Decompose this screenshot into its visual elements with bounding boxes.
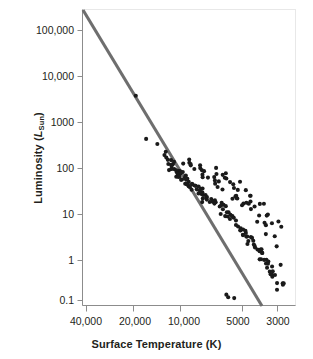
scatter-point [187, 158, 191, 162]
scatter-point [247, 202, 251, 206]
y-axis-title: Luminosity (LSun) [28, 38, 44, 278]
scatter-point [265, 266, 269, 270]
scatter-point [164, 155, 168, 159]
scatter-point [224, 171, 228, 175]
scatter-point [253, 204, 257, 208]
scatter-point [217, 179, 221, 183]
scatter-point [273, 234, 277, 238]
scatter-point [234, 218, 238, 222]
scatter-point [181, 162, 185, 166]
scatter-point [214, 166, 218, 170]
scatter-point [273, 273, 277, 277]
scatter-point [258, 202, 262, 206]
scatter-point [219, 212, 223, 216]
scatter-point [270, 221, 274, 225]
scatter-point [252, 243, 256, 247]
scatter-point [255, 220, 259, 224]
scatter-point [198, 163, 202, 167]
scatter-point [144, 137, 148, 141]
scatter-point [212, 202, 216, 206]
scatter-point [219, 203, 223, 207]
scatter-point [226, 295, 230, 299]
scatter-point [266, 259, 270, 263]
scatter-point [279, 263, 283, 267]
scatter-point [249, 235, 253, 239]
y-tick-label-0.1: 0.1 [8, 294, 74, 306]
y-tick-label-100000: 100,000 [8, 24, 74, 36]
scatter-point [220, 188, 224, 192]
y-axis-title-symbol: L [32, 130, 44, 137]
x-tick-label-40000: 40,000 [70, 315, 102, 327]
y-tick-marks [78, 31, 83, 301]
scatter-point [221, 207, 225, 211]
scatter-point [264, 232, 268, 236]
scatter-point [235, 197, 239, 201]
scatter-point [262, 202, 266, 206]
scatter-point [206, 176, 210, 180]
scatter-point [200, 191, 204, 195]
x-tick-label-3000: 3000 [266, 315, 289, 327]
scatter-point [263, 221, 267, 225]
scatter-point [276, 219, 280, 223]
scatter-point [260, 251, 264, 255]
scatter-point [200, 168, 204, 172]
scatter-point [246, 239, 250, 243]
scatter-point [155, 142, 159, 146]
scatter-point [238, 180, 242, 184]
scatter-point [259, 247, 263, 251]
scatter-point [216, 185, 220, 189]
scatter-point [181, 170, 185, 174]
scatter-point [243, 229, 247, 233]
scatter-point [224, 204, 228, 208]
scatter-point [201, 175, 205, 179]
scatter-point [240, 203, 244, 207]
scatter-point [238, 228, 242, 232]
y-axis-title-subscript: Sun [37, 116, 46, 130]
scatter-point [192, 167, 196, 171]
scatter-point [279, 225, 283, 229]
scatter-point [269, 272, 273, 276]
scatter-point [275, 288, 279, 292]
scatter-point [266, 213, 270, 217]
x-tick-marks [87, 306, 278, 312]
scatter-point [170, 164, 174, 168]
scatter-point [205, 195, 209, 199]
scatter-point [282, 281, 286, 285]
scatter-point [232, 186, 236, 190]
scatter-point [228, 217, 232, 221]
scatter-point [213, 182, 217, 186]
scatter-point [232, 296, 236, 300]
scatter-point [225, 210, 229, 214]
scatter-point [251, 239, 255, 243]
scatter-point [257, 213, 261, 217]
scatter-point [275, 244, 279, 248]
x-axis-title: Surface Temperature (K) [0, 338, 313, 350]
scatter-point [236, 188, 240, 192]
x-tick-label-10000: 10,000 [168, 315, 200, 327]
scatter-point [134, 94, 138, 98]
scatter-point [248, 194, 252, 198]
scatter-point [236, 224, 240, 228]
y-axis-title-text: Luminosity ( [32, 137, 44, 204]
scatter-point [275, 281, 279, 285]
hr-diagram-figure: 100,000 10,000 1000 100 10 1 0.1 40,000 … [0, 0, 313, 359]
scatter-point [200, 200, 204, 204]
scatter-point [249, 207, 253, 211]
x-tick-label-5000: 5000 [226, 315, 249, 327]
scatter-point [244, 235, 248, 239]
scatter-point [224, 176, 228, 180]
x-tick-label-20000: 20,000 [119, 315, 151, 327]
scatter-point [270, 264, 274, 268]
scatter-point [177, 174, 181, 178]
scatter-point [244, 188, 248, 192]
scatter-point [228, 180, 232, 184]
scatter-point [189, 162, 193, 166]
scatter-point [190, 188, 194, 192]
